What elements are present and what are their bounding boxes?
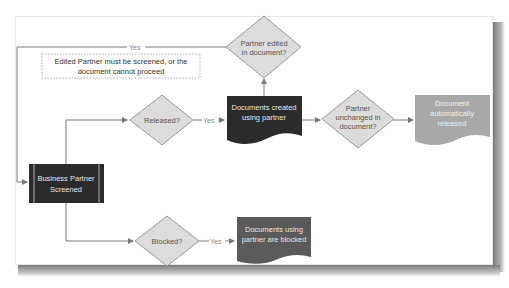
edge-start-to-blocked	[66, 203, 133, 241]
node-label: Document	[435, 99, 470, 108]
note-line-1: Edited Partner must be screened, or the	[55, 57, 188, 66]
node-documents-blocked: Documents using partner are blocked	[237, 217, 311, 264]
node-label: Screened	[50, 185, 82, 194]
node-label: Business Partner	[37, 174, 95, 183]
node-label: automatically	[430, 109, 474, 118]
node-label: Released?	[144, 116, 180, 125]
edge-label-yes-released: Yes	[203, 117, 215, 124]
node-business-partner-screened: Business Partner Screened	[29, 164, 104, 203]
flowchart: Yes Yes Yes Edited Partner must be scree…	[0, 0, 509, 288]
node-label: Partner	[346, 104, 371, 113]
node-blocked-decision: Blocked?	[135, 216, 199, 266]
node-label: document?	[339, 122, 376, 131]
note-box: Edited Partner must be screened, or the …	[42, 54, 200, 78]
node-partner-edited-decision: Partner edited in document?	[226, 16, 301, 78]
node-document-released: Document automatically released	[415, 95, 490, 145]
node-label: using partner	[242, 113, 286, 122]
node-label: unchanged in	[335, 113, 380, 122]
node-label: Documents created	[231, 103, 296, 112]
edge-label-yes-edited: Yes	[129, 44, 141, 51]
note-line-2: document cannot proceed	[78, 67, 165, 76]
edge-label-yes-blocked: Yes	[210, 238, 222, 245]
edge-start-to-released	[66, 120, 127, 164]
node-partner-unchanged-decision: Partner unchanged in document?	[322, 90, 394, 148]
node-label: Documents using	[245, 225, 303, 234]
node-released-decision: Released?	[130, 95, 193, 145]
node-label: released	[438, 119, 467, 128]
node-label: in document?	[241, 48, 286, 57]
node-label: partner are blocked	[242, 235, 307, 244]
node-label: Blocked?	[152, 237, 183, 246]
node-label: Partner edited	[240, 39, 287, 48]
node-documents-created: Documents created using partner	[227, 96, 302, 144]
